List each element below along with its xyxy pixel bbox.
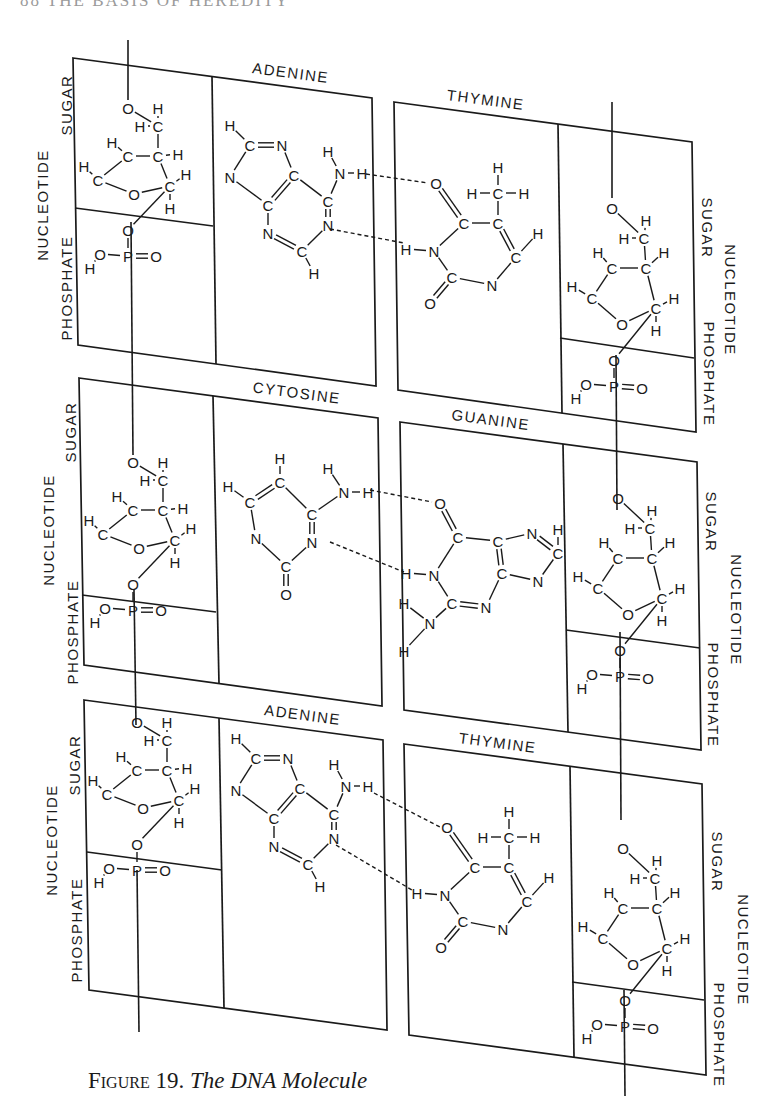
svg-text:H: H xyxy=(88,772,99,789)
svg-text:C: C xyxy=(587,290,598,307)
svg-text:C: C xyxy=(297,243,308,260)
svg-text:C: C xyxy=(453,529,464,546)
svg-text:H: H xyxy=(493,159,504,176)
svg-text:C: C xyxy=(639,230,650,247)
svg-text:N: N xyxy=(283,750,294,767)
nucleotide-label: NUCLEOTIDE xyxy=(735,894,752,1006)
svg-text:C: C xyxy=(153,148,164,165)
svg-text:H: H xyxy=(670,884,681,901)
svg-text:C: C xyxy=(165,178,176,195)
svg-text:O: O xyxy=(133,540,145,557)
svg-text:H: H xyxy=(309,265,320,282)
svg-text:C: C xyxy=(511,249,522,266)
svg-text:C: C xyxy=(641,260,652,277)
cytosine-1: HCCHCNCONNHH xyxy=(223,450,374,603)
svg-text:P: P xyxy=(132,862,142,879)
thymine-2: OCCCHHHCHNCONH xyxy=(412,803,555,956)
svg-text:C: C xyxy=(269,810,280,827)
svg-text:C: C xyxy=(245,137,256,154)
svg-text:H: H xyxy=(315,878,326,895)
sugar-label: SUGAR xyxy=(703,492,720,553)
svg-text:P: P xyxy=(123,248,133,265)
svg-text:H: H xyxy=(519,185,530,202)
nucleotide-label: NUCLEOTIDE xyxy=(43,784,60,896)
svg-text:O: O xyxy=(591,1016,603,1033)
svg-text:C: C xyxy=(275,474,286,491)
svg-text:H: H xyxy=(630,870,641,887)
svg-text:C: C xyxy=(329,806,340,823)
svg-text:C: C xyxy=(162,732,173,749)
sugar-label: SUGAR xyxy=(699,198,716,259)
phosphate-label: PHOSPHATE xyxy=(701,322,718,427)
nucleotide-label: NUCLEOTIDE xyxy=(728,554,745,666)
svg-text:C: C xyxy=(447,269,458,286)
svg-text:N: N xyxy=(339,484,350,501)
svg-text:C: C xyxy=(281,558,292,575)
svg-text:H: H xyxy=(140,472,151,489)
svg-text:H: H xyxy=(553,521,564,538)
svg-text:O: O xyxy=(627,956,639,973)
svg-text:C: C xyxy=(652,900,663,917)
svg-text:H: H xyxy=(178,500,189,517)
svg-text:C: C xyxy=(613,550,624,567)
svg-text:O: O xyxy=(434,495,446,512)
svg-text:O: O xyxy=(606,200,618,217)
svg-text:H: H xyxy=(79,158,90,175)
svg-text:H: H xyxy=(112,488,123,505)
svg-text:O: O xyxy=(430,175,442,192)
svg-text:H: H xyxy=(619,230,630,247)
svg-text:O: O xyxy=(131,836,143,853)
svg-text:C: C xyxy=(447,595,458,612)
svg-text:H: H xyxy=(467,185,478,202)
svg-text:C: C xyxy=(470,859,481,876)
svg-text:N: N xyxy=(533,573,544,590)
svg-text:H: H xyxy=(363,778,374,795)
svg-text:O: O xyxy=(647,1020,659,1037)
svg-text:H: H xyxy=(665,534,676,551)
svg-text:H: H xyxy=(85,260,96,277)
svg-text:N: N xyxy=(225,169,236,186)
svg-text:O: O xyxy=(441,819,453,836)
svg-text:C: C xyxy=(553,545,564,562)
sugar-phosphate-left-2: OCHHCCHCHOCHHHOPOHO xyxy=(84,454,197,631)
svg-text:C: C xyxy=(607,260,618,277)
panel-left-3: ADENINE xyxy=(84,700,387,1030)
svg-text:H: H xyxy=(116,748,127,765)
svg-text:O: O xyxy=(122,222,134,239)
svg-text:N: N xyxy=(329,830,340,847)
svg-text:H: H xyxy=(604,884,615,901)
svg-text:C: C xyxy=(593,580,604,597)
svg-text:H: H xyxy=(573,568,584,585)
svg-text:H: H xyxy=(182,760,193,777)
svg-text:C: C xyxy=(504,829,515,846)
svg-text:O: O xyxy=(159,862,171,879)
svg-text:O: O xyxy=(150,248,162,265)
sugar-phosphate-right-1: OCHHCCHCHOCHHHOPOHO xyxy=(567,200,680,407)
svg-text:H: H xyxy=(165,200,176,217)
svg-text:C: C xyxy=(162,762,173,779)
svg-text:O: O xyxy=(127,454,139,471)
svg-text:O: O xyxy=(642,670,654,687)
svg-text:H: H xyxy=(659,244,670,261)
svg-text:H: H xyxy=(399,643,410,660)
svg-text:H: H xyxy=(669,290,680,307)
nucleotide-label: NUCLEOTIDE xyxy=(34,149,51,261)
svg-text:C: C xyxy=(102,786,113,803)
svg-text:C: C xyxy=(497,565,508,582)
svg-text:N: N xyxy=(263,225,274,242)
svg-text:C: C xyxy=(657,590,668,607)
svg-text:H: H xyxy=(275,450,286,467)
svg-text:H: H xyxy=(530,829,541,846)
svg-text:C: C xyxy=(128,502,139,519)
svg-text:C: C xyxy=(153,118,164,135)
phosphate-label: PHOSPHATE xyxy=(64,580,81,685)
svg-text:C: C xyxy=(493,215,504,232)
svg-text:H: H xyxy=(657,612,668,629)
base-label: ADENINE xyxy=(263,701,342,728)
svg-text:C: C xyxy=(645,520,656,537)
svg-text:H: H xyxy=(153,100,164,117)
dna-diagram: ADENINETHYMINECYTOSINEGUANINEADENINETHYM… xyxy=(0,0,784,1118)
sugar-phosphate-backbone xyxy=(128,40,625,1096)
svg-text:C: C xyxy=(647,550,658,567)
svg-text:C: C xyxy=(662,940,673,957)
